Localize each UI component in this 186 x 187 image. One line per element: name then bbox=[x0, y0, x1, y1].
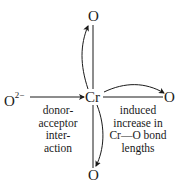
caption-line: lengths bbox=[106, 142, 170, 155]
caption-line: action bbox=[30, 142, 86, 155]
caption-line: Cr—O bond bbox=[106, 129, 170, 142]
caption-line: induced bbox=[106, 104, 170, 117]
caption-induced-increase: induced increase in Cr—O bond lengths bbox=[106, 104, 170, 154]
oxide-charge: 2− bbox=[15, 90, 25, 100]
oxygen-bottom: O bbox=[88, 168, 99, 183]
oxide-donor: O2− bbox=[4, 90, 24, 109]
caption-line: inter- bbox=[30, 129, 86, 142]
curved-arrow-top bbox=[82, 26, 88, 89]
oxygen-top: O bbox=[88, 9, 99, 24]
caption-donor-acceptor: donor- acceptor inter- action bbox=[30, 104, 86, 154]
caption-line: increase in bbox=[106, 117, 170, 130]
caption-line: donor- bbox=[30, 104, 86, 117]
chromium-atom: Cr bbox=[85, 90, 100, 105]
oxide-symbol: O bbox=[4, 93, 15, 109]
oxygen-right: O bbox=[164, 90, 175, 105]
curved-arrow-right bbox=[104, 85, 164, 93]
curved-arrow-bottom bbox=[96, 105, 103, 166]
caption-line: acceptor bbox=[30, 117, 86, 130]
